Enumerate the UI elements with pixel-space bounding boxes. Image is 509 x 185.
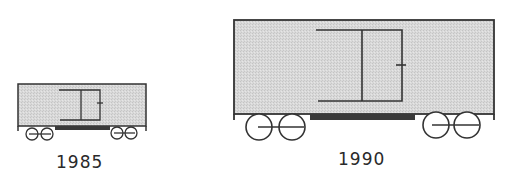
boxcar-pictograph: 1985 1990 bbox=[0, 0, 509, 185]
year-label-1985: 1985 bbox=[56, 154, 103, 171]
undercarriage-bar bbox=[310, 114, 415, 120]
undercarriage-bar bbox=[55, 126, 110, 130]
year-label-1990: 1990 bbox=[338, 151, 385, 168]
boxcar-body bbox=[234, 20, 494, 114]
boxcar-1990 bbox=[234, 20, 494, 140]
boxcar-1985 bbox=[18, 84, 146, 140]
